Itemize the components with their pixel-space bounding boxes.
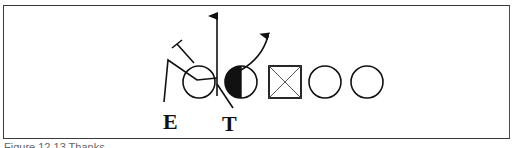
center-player-square xyxy=(269,66,301,98)
guard-player-circle xyxy=(309,66,341,98)
end-label: E xyxy=(163,111,178,133)
far-tackle-player-circle xyxy=(351,66,383,98)
block-route xyxy=(172,40,194,63)
curved-arrow-route xyxy=(241,36,268,70)
tackle-label: T xyxy=(222,113,237,135)
tackle-player-circle xyxy=(225,66,257,98)
figure-caption: Figure 12.13 Thanks xyxy=(4,142,105,148)
play-diagram xyxy=(0,0,517,148)
end-player-circle xyxy=(183,66,215,98)
